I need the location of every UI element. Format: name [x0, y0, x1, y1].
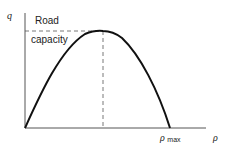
- x-axis-label: ρ: [212, 132, 218, 143]
- annotation-road: Road: [35, 15, 59, 26]
- annotation-capacity: capacity: [31, 34, 68, 45]
- rho-max-label: ρ max: [159, 132, 181, 143]
- flow-density-curve: [25, 31, 170, 128]
- flow-density-diagram: q Road capacity ρ max ρ: [0, 0, 232, 149]
- y-axis-label: q: [7, 10, 12, 21]
- max-subscript: max: [167, 136, 181, 143]
- rho-symbol: ρ: [159, 132, 165, 143]
